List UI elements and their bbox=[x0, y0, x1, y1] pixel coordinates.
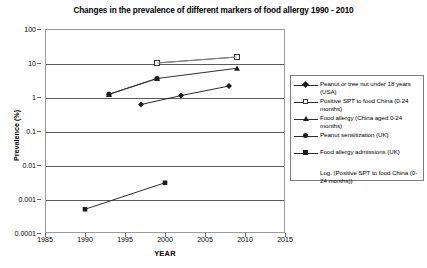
y-tick-mark bbox=[37, 233, 41, 234]
x-axis-title: YEAR bbox=[45, 249, 285, 258]
legend-swatch-triangle bbox=[294, 115, 318, 124]
legend-marker-circle bbox=[303, 133, 308, 138]
series-2 bbox=[106, 65, 240, 96]
legend-item-1[interactable]: Positive SPT to food China (0-24 months) bbox=[294, 97, 420, 114]
legend-item-5[interactable]: Log. (Positive SPT to food China (0-24 m… bbox=[294, 169, 420, 184]
data-point-diamond bbox=[226, 83, 232, 89]
legend-item-2[interactable]: Food allergy (China aged 0-24 months) bbox=[294, 114, 420, 131]
legend-label: Food allergy admissions (UK) bbox=[318, 148, 401, 156]
x-axis-labels: 1985199019952000200520102015 bbox=[0, 236, 427, 248]
legend-label: Peanut sensitization (UK) bbox=[318, 131, 390, 139]
y-tick-mark bbox=[37, 63, 41, 64]
data-point-circle bbox=[106, 92, 111, 97]
y-tick-label-1: 1 bbox=[32, 94, 36, 101]
x-tick-label-2000: 2000 bbox=[157, 236, 173, 243]
y-tick-label-10: 10 bbox=[28, 60, 36, 67]
data-point-square-filled bbox=[83, 207, 88, 212]
data-point-diamond bbox=[138, 102, 144, 108]
legend-marker-diamond bbox=[302, 81, 309, 88]
x-tick-label-2010: 2010 bbox=[237, 236, 253, 243]
legend-swatch-square-open bbox=[294, 98, 318, 107]
series-line bbox=[141, 86, 229, 104]
y-axis-labels: 0.00010.0010.010.1110100 bbox=[0, 29, 41, 233]
x-tick-mark bbox=[205, 233, 206, 237]
legend-swatch-diamond bbox=[294, 81, 318, 90]
series-3 bbox=[106, 76, 159, 97]
x-tick-label-1995: 1995 bbox=[117, 236, 133, 243]
y-tick-mark bbox=[37, 131, 41, 132]
x-tick-mark bbox=[125, 233, 126, 237]
data-point-circle bbox=[154, 76, 159, 81]
x-tick-mark bbox=[285, 233, 286, 237]
legend-item-0[interactable]: Peanut or tree nut under 18 years (USA) bbox=[294, 80, 420, 97]
y-tick-mark bbox=[37, 29, 41, 30]
series-line bbox=[85, 183, 165, 209]
legend-label: Log. (Positive SPT to food China (0-24 m… bbox=[318, 169, 420, 184]
series-line bbox=[109, 79, 157, 95]
y-tick-label-100: 100 bbox=[24, 26, 36, 33]
series-0 bbox=[138, 83, 232, 107]
data-point-square-filled bbox=[163, 180, 168, 185]
legend-label: Positive SPT to food China (0-24 months) bbox=[318, 97, 420, 112]
legend-marker-square-open bbox=[303, 99, 308, 104]
x-tick-label-1990: 1990 bbox=[77, 236, 93, 243]
data-point-diamond bbox=[178, 93, 184, 99]
legend-label: Food allergy (China aged 0-24 months) bbox=[318, 114, 420, 129]
series-line bbox=[109, 68, 237, 94]
series-layer bbox=[45, 29, 285, 233]
series-4 bbox=[83, 180, 168, 211]
x-tick-mark bbox=[165, 233, 166, 237]
y-tick-mark bbox=[37, 165, 41, 166]
x-tick-mark bbox=[45, 233, 46, 237]
legend-item-4[interactable]: Food allergy admissions (UK) bbox=[294, 148, 420, 165]
y-tick-label-0.01: 0.01 bbox=[22, 162, 36, 169]
y-tick-mark bbox=[37, 199, 41, 200]
legend-label: Peanut or tree nut under 18 years (USA) bbox=[318, 80, 420, 95]
legend-marker-square-filled bbox=[303, 150, 308, 155]
legend-marker-triangle bbox=[303, 116, 309, 121]
chart-title: Changes in the prevalence of different m… bbox=[0, 6, 427, 15]
y-tick-mark bbox=[37, 97, 41, 98]
x-tick-label-2015: 2015 bbox=[277, 236, 293, 243]
x-tick-label-2005: 2005 bbox=[197, 236, 213, 243]
chart-legend: Peanut or tree nut under 18 years (USA)P… bbox=[290, 75, 424, 181]
series-line bbox=[157, 57, 237, 63]
legend-swatch-none bbox=[294, 170, 318, 179]
y-tick-label-0.001: 0.001 bbox=[18, 196, 36, 203]
legend-item-3[interactable]: Peanut sensitization (UK) bbox=[294, 131, 420, 148]
x-tick-mark bbox=[85, 233, 86, 237]
y-tick-label-0.1: 0.1 bbox=[26, 128, 36, 135]
legend-swatch-square-filled bbox=[294, 149, 318, 158]
chart-root: Changes in the prevalence of different m… bbox=[0, 0, 427, 268]
x-tick-mark bbox=[245, 233, 246, 237]
series-5 bbox=[157, 57, 237, 63]
legend-swatch-circle bbox=[294, 132, 318, 141]
x-tick-label-1985: 1985 bbox=[37, 236, 53, 243]
